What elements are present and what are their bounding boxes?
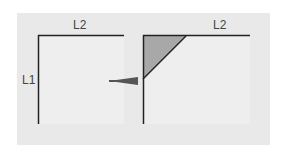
arrow-shaft [109,80,123,82]
diagram-canvas [0,0,282,157]
right-top-label: L2 [213,18,226,32]
left-side-label: L1 [22,73,35,87]
left-top-label: L2 [73,18,86,32]
